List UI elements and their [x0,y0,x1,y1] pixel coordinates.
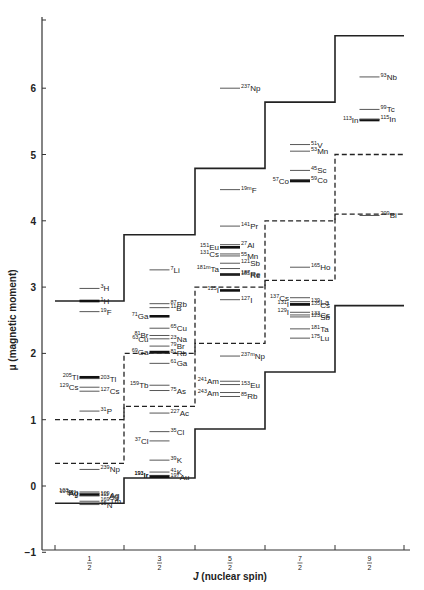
svg-text:69Ga: 69Ga [132,347,149,357]
svg-text:243Am: 243Am [198,388,220,398]
isotope-81Rb: 81Rb [150,348,188,358]
svg-text:127Cs: 127Cs [101,386,120,396]
svg-text:15N: 15N [101,500,113,510]
isotope-37Cl: 37Cl [135,436,170,446]
svg-text:7Li: 7Li [171,265,181,275]
isotope-141Pr: 141Pr [220,221,259,231]
isotope-175Lu: 175Lu [290,333,329,343]
svg-text:121Sb: 121Sb [241,258,261,268]
svg-text:203Tl: 203Tl [101,374,117,384]
svg-text:71Ga: 71Ga [132,311,149,321]
svg-text:241Am: 241Am [198,376,220,386]
svg-text:37Cl: 37Cl [135,436,149,446]
svg-text:181mTa: 181mTa [197,264,220,274]
isotope-69Ga: 69Ga [132,347,170,357]
x-axis-title: J (nuclear spin) [193,571,267,582]
svg-text:19mF: 19mF [241,185,257,195]
svg-text:19F: 19F [101,307,112,317]
isotope-243Am: 243Am [198,388,240,398]
y-tick-label: 0 [30,481,36,492]
isotope-39K: 39K [150,455,183,465]
isotope-115In: 115In [360,114,396,124]
svg-text:1H: 1H [101,296,110,306]
svg-text:3H: 3H [101,283,110,293]
svg-text:237mNp: 237mNp [241,351,266,361]
isotope-57Co: 57Co [273,176,310,186]
isotope-129Cs: 129Cs [60,382,100,392]
y-tick-label: 4 [30,216,36,227]
svg-text:2: 2 [368,564,372,571]
svg-text:75As: 75As [171,386,186,396]
svg-text:175Lu: 175Lu [311,333,329,343]
svg-text:59Co: 59Co [311,175,328,185]
isotope-7Li: 7Li [150,265,181,275]
svg-text:197Au: 197Au [171,472,190,482]
isotope-107Ag: 107Ag [60,488,100,498]
isotope-187Re: 187Re [220,269,261,279]
svg-text:61Ga: 61Ga [171,358,188,368]
isotope-19F: 19F [80,307,112,317]
isotope-31P: 31P [80,406,112,416]
svg-text:187Re: 187Re [241,269,261,279]
svg-text:5: 5 [228,555,232,562]
isotope-113In: 113In [343,115,379,125]
isotope-131Cs: 131Cs [200,249,240,259]
isotope-209Bi: 209Bi [360,210,398,220]
svg-text:2: 2 [158,564,162,571]
svg-text:81Rb: 81Rb [171,348,188,358]
isotope-165Ho: 165Ho [290,262,331,272]
y-axis-title: μ (magnetic moment) [7,269,18,370]
isotope-75As: 75As [150,386,186,396]
y-tick-label: −1 [25,547,37,558]
isotope-181Ta: 181Ta [290,324,329,334]
y-tick-label: 3 [30,282,36,293]
svg-text:165Ho: 165Ho [311,262,331,272]
svg-text:63Cu: 63Cu [132,334,148,344]
isotope-127I: 127I [220,295,252,305]
svg-text:135Cs: 135Cs [311,300,330,310]
svg-text:125I: 125I [208,285,219,295]
isotope-237Np: 237Np [220,83,261,93]
svg-text:115In: 115In [381,114,396,124]
schmidt-line [55,36,404,301]
svg-text:113In: 113In [343,115,358,125]
svg-text:227Ac: 227Ac [171,408,190,418]
svg-text:3: 3 [158,555,162,562]
isotope-121Sb: 121Sb [220,258,261,268]
isotope-159Tb: 159Tb [130,380,170,390]
svg-text:65Cu: 65Cu [171,323,187,333]
x-tick-label: 12 [87,555,92,571]
svg-text:129Cs: 129Cs [60,382,79,392]
isotope-11B: 11B [150,303,182,313]
isotope-237mNp: 237mNp [220,351,266,361]
x-tick-label: 52 [228,555,233,571]
svg-text:159Tb: 159Tb [130,380,149,390]
svg-text:31P: 31P [101,406,112,416]
y-tick-label: 5 [30,150,36,161]
isotope-markers: 3H1H19F205Tl203Tl129Cs127Cs31P239Np103Rh… [59,72,397,510]
isotope-85Rb: 85Rb [220,391,258,401]
svg-text:131Cs: 131Cs [200,249,219,259]
schmidt-lines [55,36,404,503]
isotope-181mTa: 181mTa [197,264,240,274]
y-tick-label: 2 [30,348,36,359]
svg-text:239Np: 239Np [101,464,121,474]
x-tick-label: 92 [367,555,372,571]
svg-text:39K: 39K [171,455,183,465]
isotope-65Cu: 65Cu [150,323,187,333]
isotope-59Co: 59Co [290,175,328,185]
svg-text:1: 1 [88,555,92,562]
isotope-45Sc: 45Sc [290,165,326,175]
isotope-87Rb: 87Rb [150,299,188,309]
svg-text:93Nb: 93Nb [381,72,398,82]
isotope-61Ga: 61Ga [150,358,188,368]
schmidt-line [55,306,404,504]
isotope-93Nb: 93Nb [360,72,398,82]
svg-text:153Eu: 153Eu [241,380,260,390]
svg-text:7: 7 [298,555,302,562]
svg-text:27Al: 27Al [241,240,254,250]
isotope-203Tl: 203Tl [80,374,117,384]
isotope-123Sb: 123Sb [290,312,331,322]
isotope-205Tl: 205Tl [63,372,100,382]
svg-text:9: 9 [368,555,372,562]
